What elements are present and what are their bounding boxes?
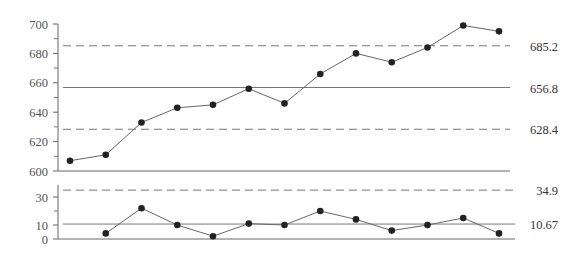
- data-point: [388, 227, 395, 234]
- data-point: [424, 44, 431, 51]
- data-point: [102, 230, 109, 237]
- data-point: [210, 233, 217, 240]
- data-point: [67, 157, 74, 164]
- y-tick-label: 620: [29, 135, 48, 149]
- data-point: [281, 100, 288, 107]
- data-line: [106, 208, 499, 236]
- y-tick-label: 10: [36, 219, 49, 233]
- data-point: [424, 222, 431, 229]
- data-point: [281, 222, 288, 229]
- y-tick-label: 600: [29, 165, 48, 179]
- y-tick-label: 30: [36, 191, 49, 205]
- data-point: [496, 230, 503, 237]
- moving-range-chart: 0103034.910.67: [36, 184, 559, 246]
- y-tick-label: 660: [29, 76, 48, 90]
- ucl-label: 685.2: [530, 40, 558, 54]
- ucl-label: 34.9: [536, 184, 558, 198]
- data-point: [138, 119, 145, 126]
- data-point: [353, 50, 360, 57]
- data-point: [317, 208, 324, 215]
- data-point: [353, 216, 360, 223]
- data-point: [496, 28, 503, 35]
- lcl-label: 628.4: [530, 123, 559, 137]
- data-point: [460, 22, 467, 29]
- data-point: [245, 85, 252, 92]
- data-point: [245, 220, 252, 227]
- data-point: [174, 104, 181, 111]
- individuals-chart: 600620640660680700685.2656.8628.4: [29, 18, 559, 179]
- data-point: [174, 222, 181, 229]
- y-tick-label: 700: [29, 18, 48, 32]
- data-point: [317, 71, 324, 78]
- data-point: [138, 205, 145, 212]
- data-point: [102, 152, 109, 159]
- y-tick-label: 680: [29, 47, 48, 61]
- cl-label: 656.8: [530, 82, 558, 96]
- data-point: [210, 102, 217, 109]
- y-tick-label: 0: [42, 233, 48, 247]
- y-tick-label: 640: [29, 106, 48, 120]
- cl-label: 10.67: [530, 218, 558, 232]
- control-chart: 600620640660680700685.2656.8628.4 010303…: [0, 0, 573, 257]
- data-point: [460, 215, 467, 222]
- data-point: [388, 59, 395, 66]
